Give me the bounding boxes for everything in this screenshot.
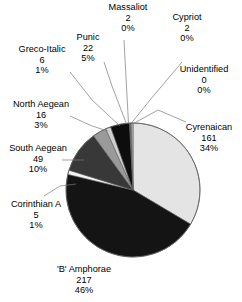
slice-label-cyrenaican-percent: 34%: [176, 143, 242, 154]
slice-label-cyrenaican-name: Cyrenaican: [176, 122, 242, 133]
slice-label-south-aegean-value: 49: [0, 154, 76, 165]
pie-chart-figure: Massaliot 2 0% Cypriot 2 0% Punic 22 5% …: [0, 0, 242, 302]
slice-label-massaliot: Massaliot 2 0%: [93, 2, 163, 34]
slice-label-corinthian-a: Corinthian A 5 1%: [0, 199, 72, 231]
slice-label-corinthian-a-value: 5: [0, 210, 72, 221]
slice-label-punic-name: Punic: [62, 32, 114, 43]
slice-label-south-aegean: South Aegean 49 10%: [0, 143, 76, 175]
slice-label-b-amphorae-value: 217: [41, 275, 127, 286]
slice-label-cypriot-value: 2: [157, 23, 217, 34]
slice-label-cyrenaican-value: 161: [176, 133, 242, 144]
slice-label-greco-italic-value: 6: [6, 55, 78, 66]
slice-label-cypriot-name: Cypriot: [157, 12, 217, 23]
slice-label-greco-italic-percent: 1%: [6, 65, 78, 76]
slice-label-unidentified: Unidentified 0 0%: [168, 64, 240, 96]
slice-label-north-aegean-percent: 3%: [3, 120, 79, 131]
slice-label-massaliot-value: 2: [93, 13, 163, 24]
slice-label-north-aegean-value: 16: [3, 110, 79, 121]
slice-label-unidentified-value: 0: [168, 75, 240, 86]
slice-label-b-amphorae-percent: 46%: [41, 285, 127, 296]
slice-label-corinthian-a-name: Corinthian A: [0, 199, 72, 210]
slice-label-cyrenaican: Cyrenaican 161 34%: [176, 122, 242, 154]
slice-label-b-amphorae: 'B' Amphorae 217 46%: [41, 264, 127, 296]
slice-label-unidentified-percent: 0%: [168, 85, 240, 96]
slice-label-north-aegean-name: North Aegean: [3, 99, 79, 110]
slice-label-cypriot-percent: 0%: [157, 33, 217, 44]
slice-label-south-aegean-name: South Aegean: [0, 143, 76, 154]
slice-label-greco-italic-name: Greco-Italic: [6, 44, 78, 55]
slice-label-cypriot: Cypriot 2 0%: [157, 12, 217, 44]
slice-label-north-aegean: North Aegean 16 3%: [3, 99, 79, 131]
leader-line-massaliot: [124, 40, 129, 124]
slice-label-greco-italic: Greco-Italic 6 1%: [6, 44, 78, 76]
slice-label-massaliot-name: Massaliot: [93, 2, 163, 13]
slice-label-south-aegean-percent: 10%: [0, 164, 76, 175]
slice-label-b-amphorae-name: 'B' Amphorae: [41, 264, 127, 275]
slice-label-unidentified-name: Unidentified: [168, 64, 240, 75]
slice-label-corinthian-a-percent: 1%: [0, 220, 72, 231]
